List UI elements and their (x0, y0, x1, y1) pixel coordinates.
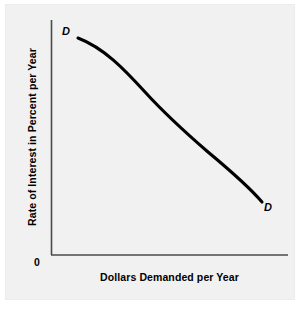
origin-label: 0 (34, 256, 40, 268)
demand-curve-line (78, 38, 262, 202)
plot-area (0, 0, 307, 311)
y-axis-title: Rate of Interest in Percent per Year (26, 42, 38, 232)
x-axis-title: Dollars Demanded per Year (51, 271, 288, 283)
demand-curve-figure: Rate of Interest in Percent per Year Dol… (0, 0, 307, 311)
curve-start-label: D (62, 25, 70, 37)
curve-end-label: D (264, 201, 272, 213)
